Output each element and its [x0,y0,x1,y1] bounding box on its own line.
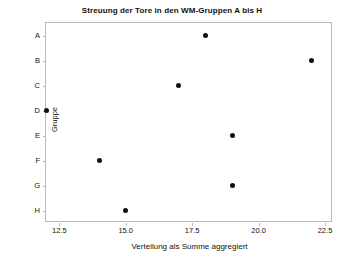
y-tick-label-e: E [26,132,40,140]
x-tick-mark [325,223,326,226]
y-tick-label-h: H [26,207,40,215]
y-tick-mark [43,161,46,162]
y-tick-label-c: C [26,82,40,90]
data-point-c [176,83,181,88]
x-tick-mark [259,223,260,226]
y-tick-label-d: D [26,107,40,115]
y-tick-mark [43,136,46,137]
x-tick-mark [126,223,127,226]
data-point-a [203,33,208,38]
plot-area: Gruppe ABCDEFGH 12.515.017.520.022.5 Ver… [45,22,332,222]
y-axis-title: Gruppe [50,90,59,150]
y-tick-label-g: G [26,182,40,190]
chart-title: Streuung der Tore in den WM-Gruppen A bi… [0,6,344,15]
x-tick-label: 17.5 [177,227,207,235]
x-tick-label: 20.0 [244,227,274,235]
data-point-d [44,108,49,113]
x-tick-label: 22.5 [310,227,340,235]
data-point-e [230,133,235,138]
x-axis-title: Verteilung als Summe aggregiert [46,242,333,251]
x-tick-label: 12.5 [44,227,74,235]
data-point-h [123,208,128,213]
data-point-b [309,58,314,63]
y-tick-mark [43,61,46,62]
y-tick-mark [43,86,46,87]
y-tick-label-f: F [26,157,40,165]
data-point-g [230,183,235,188]
y-tick-mark [43,211,46,212]
y-tick-mark [43,36,46,37]
y-tick-label-b: B [26,57,40,65]
x-tick-mark [59,223,60,226]
x-tick-label: 15.0 [111,227,141,235]
y-tick-label-a: A [26,32,40,40]
y-tick-mark [43,186,46,187]
x-tick-mark [192,223,193,226]
data-point-f [97,158,102,163]
scatter-chart: Streuung der Tore in den WM-Gruppen A bi… [0,0,344,261]
